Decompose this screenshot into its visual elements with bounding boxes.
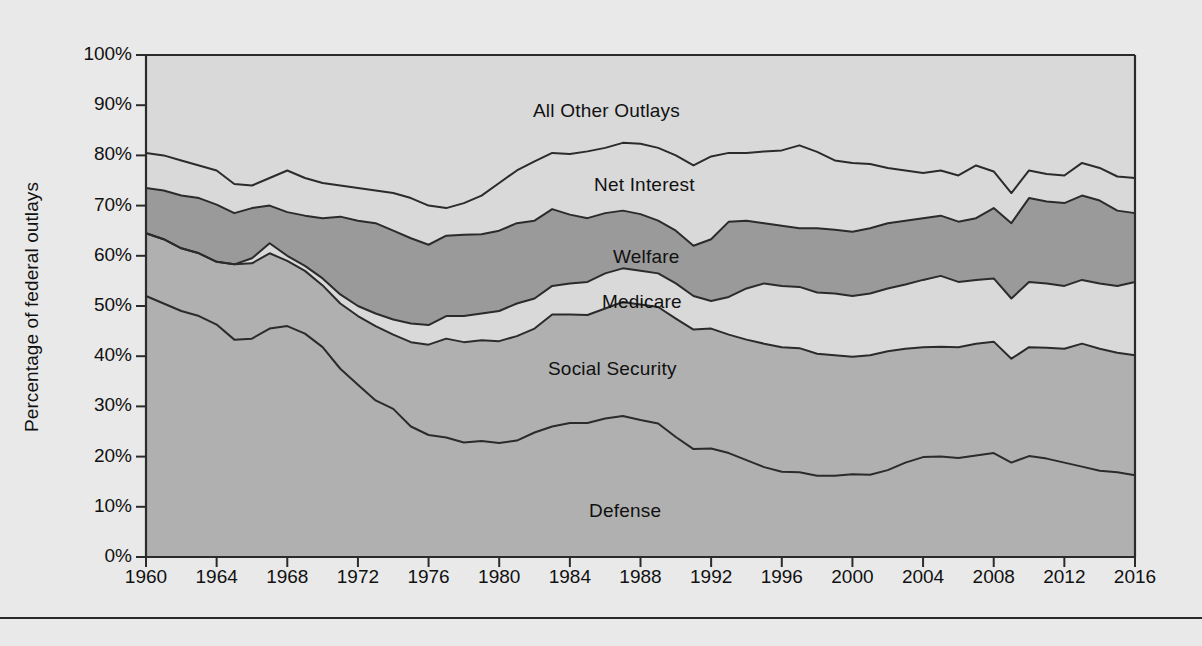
y-tick-label: 70% [66,194,132,216]
y-tick-label: 40% [66,344,132,366]
series-label-defense: Defense [589,500,661,522]
y-tick-label: 20% [66,445,132,467]
series-label-all-other-outlays: All Other Outlays [533,100,680,122]
series-label-social-security: Social Security [548,358,677,380]
series-label-medicare: Medicare [602,291,682,313]
y-tick-label: 30% [66,394,132,416]
series-label-welfare: Welfare [613,246,680,268]
y-tick-label: 80% [66,143,132,165]
x-tick-label: 2016 [1090,566,1180,588]
y-axis-title: Percentage of federal outlays [21,47,43,567]
y-tick-label: 10% [66,495,132,517]
y-tick-label: 100% [66,43,132,65]
series-label-net-interest: Net Interest [594,174,695,196]
stacked-area-chart [0,0,1202,646]
y-tick-label: 0% [66,545,132,567]
bottom-divider-rule [0,617,1202,619]
y-tick-label: 90% [66,93,132,115]
y-tick-label: 50% [66,294,132,316]
federal-outlays-stacked-area-figure: Percentage of federal outlays 0%10%20%30… [0,0,1202,646]
y-tick-label: 60% [66,244,132,266]
